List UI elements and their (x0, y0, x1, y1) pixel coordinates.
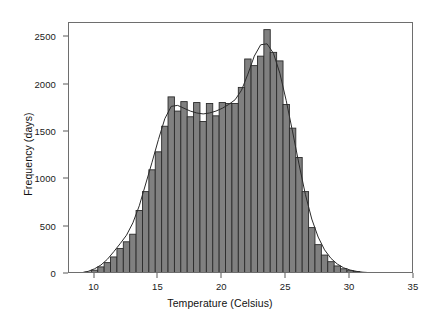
y-tick-mark (63, 273, 68, 274)
histogram-bar (213, 116, 219, 273)
x-tick-mark (413, 273, 414, 278)
histogram-bar (251, 66, 257, 273)
histogram-bar (219, 103, 225, 273)
histogram-bar (245, 59, 251, 273)
histogram-bar (181, 102, 187, 273)
histogram-bar (232, 104, 238, 273)
chart-canvas (69, 23, 413, 273)
histogram-bar (85, 272, 91, 273)
y-tick-label: 2500 (8, 31, 56, 42)
histogram-bar (123, 242, 129, 273)
histogram-bar (360, 272, 366, 273)
x-tick-mark (157, 273, 158, 278)
x-axis-title: Temperature (Celsius) (0, 297, 440, 309)
histogram-bar (142, 192, 148, 273)
x-tick-label: 35 (408, 281, 419, 292)
histogram-bar (328, 262, 334, 273)
y-axis-title: Frequency (days) (22, 74, 34, 234)
histogram-bar (187, 117, 193, 273)
histogram-bar (98, 267, 104, 273)
histogram-figure: 05001000150020002500 101520253035 Temper… (0, 0, 440, 320)
y-tick-mark (63, 178, 68, 179)
x-tick-mark (221, 273, 222, 278)
histogram-bar (226, 104, 232, 273)
histogram-bar (257, 56, 263, 273)
histogram-bar (238, 87, 244, 273)
histogram-bar (200, 122, 206, 273)
x-tick-label: 30 (344, 281, 355, 292)
histogram-bar (104, 263, 110, 273)
histogram-bars (72, 30, 404, 273)
histogram-bar (283, 104, 289, 273)
x-tick-mark (349, 273, 350, 278)
histogram-bar (111, 257, 117, 273)
histogram-bar (194, 103, 200, 273)
histogram-bar (130, 234, 136, 273)
histogram-bar (341, 269, 347, 273)
y-tick-label: 0 (8, 268, 56, 279)
x-tick-label: 10 (88, 281, 99, 292)
histogram-bar (162, 126, 168, 273)
y-tick-mark (63, 36, 68, 37)
histogram-bar (174, 111, 180, 273)
histogram-bar (136, 211, 142, 273)
histogram-bar (117, 248, 123, 273)
histogram-bar (315, 245, 321, 273)
histogram-bar (309, 228, 315, 273)
y-tick-mark (63, 83, 68, 84)
x-tick-mark (93, 273, 94, 278)
histogram-bar (289, 128, 295, 273)
y-tick-mark (63, 225, 68, 226)
x-tick-label: 15 (152, 281, 163, 292)
histogram-bar (149, 170, 155, 273)
histogram-bar (270, 52, 276, 273)
histogram-bar (155, 152, 161, 273)
histogram-bar (334, 266, 340, 273)
y-tick-mark (63, 130, 68, 131)
histogram-bar (264, 30, 270, 273)
histogram-bar (277, 61, 283, 273)
histogram-bar (206, 104, 212, 273)
x-tick-mark (285, 273, 286, 278)
histogram-bar (321, 255, 327, 273)
x-tick-label: 20 (216, 281, 227, 292)
x-tick-label: 25 (280, 281, 291, 292)
histogram-bar (168, 97, 174, 273)
plot-area (68, 22, 413, 273)
